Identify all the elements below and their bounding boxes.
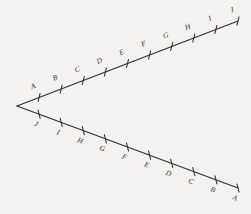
ticks-group xyxy=(38,17,239,192)
tick-label-upper-ray-2: C xyxy=(73,64,81,74)
tick-label-upper-ray-4: E xyxy=(117,47,126,58)
tick-label-upper-ray-6: G xyxy=(161,30,170,41)
tick-label-lower-ray-9: A xyxy=(230,192,239,203)
tick-label-lower-ray-6: D xyxy=(164,168,174,179)
tick-label-upper-ray-0: A xyxy=(28,81,37,92)
tick-label-upper-ray-5: F xyxy=(139,39,148,50)
tick-label-upper-ray-7: H xyxy=(183,21,193,32)
tick-label-upper-ray-1: B xyxy=(51,73,59,83)
tick-label-lower-ray-4: F xyxy=(120,151,129,162)
rays-group xyxy=(17,21,238,188)
angle-scale-figure: ABCDEFGHIJJIHGFEDCBA xyxy=(0,0,251,214)
labels-group: ABCDEFGHIJJIHGFEDCBA xyxy=(28,5,239,203)
tick-label-lower-ray-5: E xyxy=(142,159,151,170)
tick-label-upper-ray-9: J xyxy=(229,5,236,15)
tick-label-upper-ray-3: D xyxy=(94,55,104,66)
diagram-canvas: ABCDEFGHIJJIHGFEDCBA xyxy=(0,0,251,214)
tick-label-lower-ray-7: C xyxy=(187,176,195,186)
tick-label-lower-ray-8: B xyxy=(209,184,217,194)
tick-label-lower-ray-3: G xyxy=(98,143,107,154)
tick-label-lower-ray-2: H xyxy=(75,135,85,146)
tick-label-lower-ray-0: J xyxy=(33,119,40,129)
tick-label-lower-ray-1: I xyxy=(55,127,62,137)
tick-label-upper-ray-8: I xyxy=(206,13,213,23)
